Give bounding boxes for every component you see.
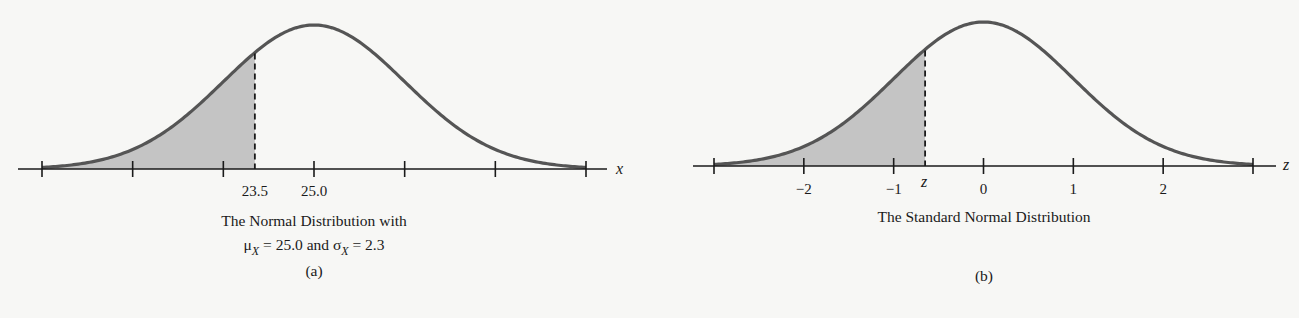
sigma-value-text: = 2.3 [349, 236, 385, 253]
panel-b-axis-label: z [1282, 156, 1290, 173]
panel-b-cutoff-label: z [920, 173, 928, 190]
panel-a-axis-label: x [615, 160, 623, 177]
tick-label: −2 [796, 181, 812, 197]
panel-a-density-curve [42, 25, 586, 167]
panel-b-title: The Standard Normal Distribution [877, 208, 1090, 225]
panel-b-tick-labels: −2−1012 [796, 181, 1167, 197]
mu-value-text: = 25.0 and [259, 236, 333, 253]
panel-a-label: (a) [305, 262, 322, 280]
panel-a-title-line2: μX = 25.0 and σX = 2.3 [244, 236, 385, 258]
panel-b-standard-normal: −2−1012 z z The Standard Normal Distribu… [693, 22, 1290, 285]
figure: 23.525.0 x The Normal Distribution with … [0, 0, 1299, 318]
panel-a-title-line1: The Normal Distribution with [221, 212, 407, 229]
tick-label: 1 [1070, 181, 1078, 197]
panel-a-normal-distribution: 23.525.0 x The Normal Distribution with … [18, 25, 623, 280]
panel-a-shaded-area [42, 53, 255, 169]
panel-b-label: (b) [975, 267, 993, 285]
tick-label: 2 [1159, 181, 1167, 197]
tick-label: 0 [980, 181, 988, 197]
tick-label: 25.0 [301, 183, 327, 199]
mu-symbol: μ [244, 236, 252, 253]
panel-a-tick-labels: 23.525.0 [242, 183, 327, 199]
panel-b-shaded-area [714, 49, 925, 166]
tick-label: −1 [886, 181, 902, 197]
panel-b-density-curve [714, 22, 1253, 164]
tick-label: 23.5 [242, 183, 268, 199]
